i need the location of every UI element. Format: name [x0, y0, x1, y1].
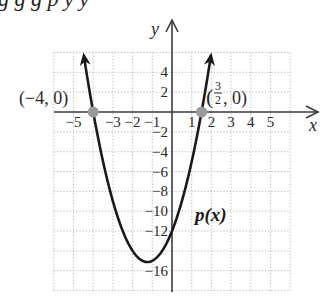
intercept-point — [88, 107, 99, 118]
point-label-left: (−4, 0) — [19, 88, 68, 109]
y-tick-label: −10 — [145, 203, 168, 219]
function-graph: g g g p y y −5−3−2−112345 42−2−4−6−8−10−… — [0, 0, 330, 303]
y-tick-label: −6 — [152, 164, 168, 180]
function-label: p(x) — [193, 204, 227, 226]
x-tick-label: 1 — [188, 114, 196, 130]
x-tick-label: −2 — [125, 114, 141, 130]
x-tick-label: −3 — [105, 114, 121, 130]
fraction-denominator: 2 — [215, 93, 221, 107]
y-tick-label: −16 — [145, 263, 169, 279]
fraction-numerator: 3 — [215, 79, 221, 93]
y-tick-label: 4 — [161, 64, 169, 80]
y-tick-label: 2 — [161, 84, 169, 100]
x-tick-label: 3 — [227, 114, 235, 130]
x-tick-label: 4 — [247, 114, 255, 130]
y-tick-label: −2 — [152, 124, 168, 140]
x-tick-label: 2 — [208, 114, 216, 130]
x-tick-label: −5 — [66, 114, 82, 130]
point-label-right: ( 3 2 , 0) — [206, 79, 247, 109]
paren-close: , 0) — [223, 88, 247, 109]
paren-open: ( — [206, 84, 213, 109]
x-axis-label: x — [308, 115, 317, 135]
y-tick-label: −8 — [152, 183, 168, 199]
cropped-caption-text: g g g p y y — [0, 0, 89, 11]
y-tick-label: −12 — [145, 223, 168, 239]
y-axis-label: y — [149, 19, 159, 39]
y-tick-label: −4 — [152, 144, 168, 160]
x-tick-label: 5 — [267, 114, 275, 130]
